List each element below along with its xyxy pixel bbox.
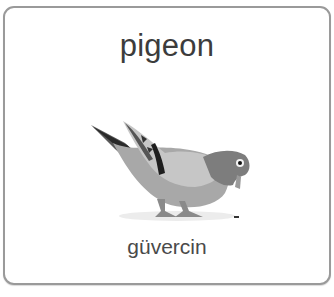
flashcard[interactable]: pigeon güvercin [3,6,331,285]
pigeon-icon [85,113,260,228]
word-translation: güvercin [5,235,329,259]
word-title: pigeon [5,28,329,64]
